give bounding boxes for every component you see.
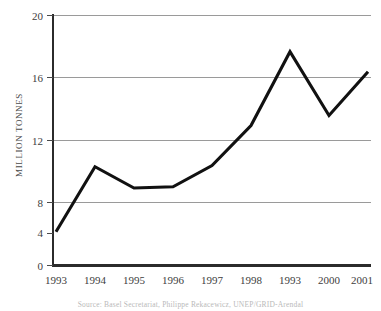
x-tick-label-6: 1993 xyxy=(279,274,302,286)
data-series-line xyxy=(56,52,368,232)
x-tick-label-5: 1998 xyxy=(240,274,263,286)
y-tick-label-16: 16 xyxy=(32,72,44,84)
y-tick-label-0: 0 xyxy=(38,260,44,272)
gridlines-group xyxy=(52,16,371,265)
x-tick-label-3: 1996 xyxy=(162,274,185,286)
x-tick-label-2: 1995 xyxy=(123,274,146,286)
axes-group xyxy=(52,14,371,266)
x-tick-labels: 1993 1994 1995 1996 1997 1998 1993 2000 … xyxy=(45,274,373,286)
line-chart-plot: 20 16 12 8 4 0 1993 1994 1995 1996 1997 … xyxy=(0,0,381,311)
y-tick-label-20: 20 xyxy=(32,10,44,22)
x-tick-label-8: 2001 xyxy=(351,274,373,286)
y-tick-label-8: 8 xyxy=(38,197,44,209)
x-tick-label-1: 1994 xyxy=(84,274,107,286)
y-tick-label-4: 4 xyxy=(38,227,44,239)
x-tick-label-0: 1993 xyxy=(45,274,68,286)
chart-figure: MILLION TONNES 20 16 12 xyxy=(0,0,381,311)
y-tick-label-12: 12 xyxy=(32,135,43,147)
x-tick-label-4: 1997 xyxy=(201,274,224,286)
x-tick-label-7: 2000 xyxy=(318,274,341,286)
source-caption: Source: Basel Secretariat, Philippe Reka… xyxy=(0,300,381,309)
y-tick-labels: 20 16 12 8 4 0 xyxy=(32,10,44,272)
